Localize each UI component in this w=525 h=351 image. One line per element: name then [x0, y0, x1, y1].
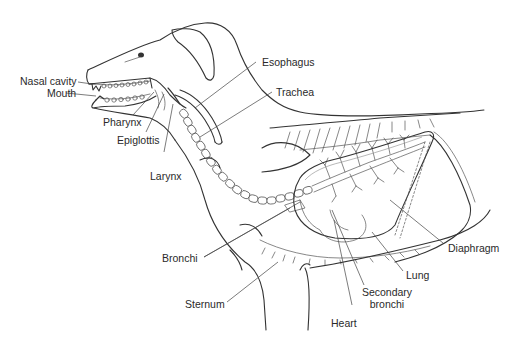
label-sternum: Sternum: [185, 298, 225, 310]
label-mouth: Mouth: [47, 87, 76, 99]
label-larynx: Larynx: [150, 170, 182, 182]
label-lung: Lung: [406, 269, 429, 281]
label-bronchi: Bronchi: [162, 252, 198, 264]
label-trachea: Trachea: [276, 86, 314, 98]
label-diaphragm: Diaphragm: [448, 242, 499, 254]
label-nasal-cavity: Nasal cavity: [20, 75, 77, 87]
label-heart: Heart: [331, 317, 357, 329]
throat-structures: [150, 78, 186, 110]
dog-anatomy-illustration: [0, 0, 525, 351]
label-secondary-bronchi-line2: bronchi: [352, 298, 422, 310]
label-secondary-bronchi-line1: Secondary: [352, 286, 422, 298]
label-esophagus: Esophagus: [262, 56, 315, 68]
respiratory-diagram: Nasal cavity Mouth Pharynx Epiglottis La…: [0, 0, 525, 351]
label-secondary-bronchi: Secondary bronchi: [352, 286, 422, 310]
dog-head-outline: [87, 23, 484, 140]
label-pharynx: Pharynx: [103, 116, 142, 128]
label-epiglottis: Epiglottis: [117, 134, 160, 146]
secondary-bronchi-branches: [320, 135, 409, 202]
